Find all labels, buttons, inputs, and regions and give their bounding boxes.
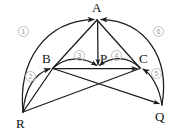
segment-R-C (23, 69, 140, 113)
arc-label-5: 5 (151, 68, 162, 79)
vertex-label-Q: Q (155, 110, 164, 123)
arc-label-3: 3 (74, 50, 85, 61)
vertex-label-P: P (100, 52, 107, 65)
vertex-label-A: A (92, 1, 101, 14)
segment-A-B (53, 20, 97, 68)
figure-canvas (0, 0, 178, 136)
arc-label-4: 4 (111, 50, 122, 61)
vertex-label-C: C (139, 52, 148, 65)
arc-label-6: 6 (153, 26, 164, 37)
vertex-label-B: B (42, 52, 51, 65)
arc-label-2: 2 (25, 71, 36, 82)
vertex-label-R: R (16, 117, 25, 130)
segment-B-Q (53, 69, 159, 104)
geometry-figure: A B P C R Q 1 2 3 4 5 6 (0, 0, 178, 136)
arc-label-1: 1 (18, 26, 29, 37)
